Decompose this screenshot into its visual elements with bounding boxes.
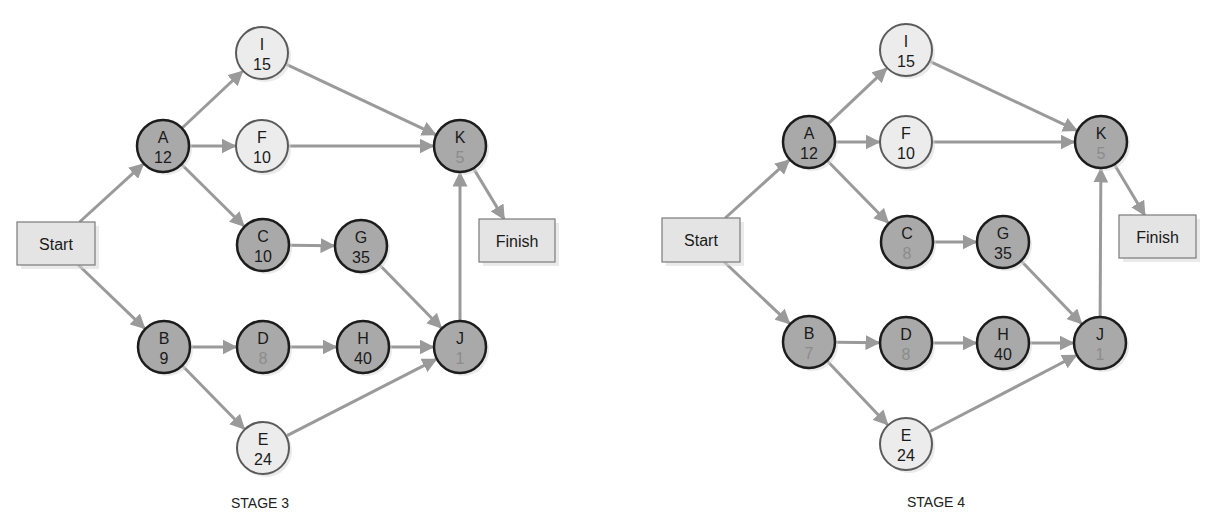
- edge-start-to-b: [78, 265, 144, 328]
- edge-a-to-i: [183, 71, 243, 127]
- start-label: Start: [39, 236, 73, 253]
- activity-node-f: F10: [880, 116, 935, 171]
- edge-b-to-e: [183, 366, 244, 428]
- node-label: C: [901, 225, 913, 242]
- activity-node-i: I15: [236, 27, 291, 82]
- node-duration: 1: [456, 350, 465, 367]
- finish-box: Finish: [479, 219, 559, 266]
- node-label: F: [257, 129, 267, 146]
- activity-node-k: K5: [1075, 116, 1130, 171]
- start-label: Start: [684, 232, 718, 249]
- edge-k-to-finish: [474, 169, 504, 219]
- edge-a-to-i: [829, 69, 887, 124]
- edge-start-to-a: [80, 164, 143, 222]
- activity-node-f: F10: [236, 120, 291, 175]
- diagram-stage-3: StartFinishA12I15F10C10G35K5B9D8H40J1E24…: [17, 27, 559, 511]
- node-label: J: [1096, 326, 1104, 343]
- activity-node-b: B7: [783, 316, 838, 371]
- activity-node-g: G35: [977, 216, 1032, 271]
- node-label: I: [904, 33, 908, 50]
- node-duration: 40: [994, 346, 1012, 363]
- node-label: E: [258, 431, 269, 448]
- node-duration: 10: [254, 248, 272, 265]
- node-duration: 5: [1097, 145, 1106, 162]
- finish-box: Finish: [1119, 215, 1200, 262]
- node-label: I: [260, 36, 264, 53]
- node-label: F: [901, 125, 911, 142]
- activity-node-j: J1: [434, 321, 489, 376]
- node-label: D: [257, 330, 269, 347]
- node-duration: 40: [354, 350, 372, 367]
- node-duration: 35: [994, 245, 1012, 262]
- node-label: K: [455, 129, 466, 146]
- node-duration: 10: [897, 145, 915, 162]
- edge-start-to-b: [724, 262, 789, 323]
- node-label: B: [159, 330, 170, 347]
- node-duration: 7: [805, 345, 814, 362]
- node-label: H: [357, 330, 369, 347]
- edge-a-to-c: [828, 161, 888, 222]
- activity-node-d: D8: [237, 321, 292, 376]
- node-label: K: [1096, 125, 1107, 142]
- stage-title: STAGE 4: [907, 494, 965, 510]
- node-duration: 35: [352, 249, 370, 266]
- node-label: E: [901, 427, 912, 444]
- node-label: J: [456, 330, 464, 347]
- edge-g-to-j: [1022, 261, 1082, 323]
- node-duration: 24: [897, 447, 915, 464]
- edge-b-to-e: [828, 362, 888, 425]
- node-label: G: [997, 225, 1009, 242]
- node-duration: 12: [800, 145, 818, 162]
- activity-node-h: H40: [337, 321, 392, 376]
- activity-node-c: C10: [237, 219, 292, 274]
- activity-node-g: G35: [335, 220, 390, 275]
- node-label: B: [804, 325, 815, 342]
- activity-node-e: E24: [880, 418, 935, 473]
- node-duration: 8: [902, 346, 911, 363]
- node-label: A: [804, 125, 815, 142]
- stage-title: STAGE 3: [231, 495, 289, 511]
- node-label: D: [900, 326, 912, 343]
- node-label: H: [997, 326, 1009, 343]
- activity-node-i: I15: [880, 24, 935, 79]
- edge-i-to-k: [286, 64, 435, 134]
- edge-i-to-k: [930, 62, 1076, 131]
- edge-a-to-c: [182, 165, 244, 226]
- activity-node-d: D8: [880, 317, 935, 372]
- node-duration: 9: [160, 350, 169, 367]
- edge-start-to-a: [725, 160, 789, 218]
- node-duration: 24: [254, 451, 272, 468]
- node-duration: 1: [1096, 346, 1105, 363]
- node-duration: 12: [154, 149, 172, 166]
- edge-g-to-j: [380, 265, 441, 327]
- node-duration: 10: [253, 149, 271, 166]
- node-duration: 8: [903, 245, 912, 262]
- network-diagram-canvas: StartFinishA12I15F10C10G35K5B9D8H40J1E24…: [0, 0, 1226, 519]
- edge-j-to-k: [1100, 169, 1101, 316]
- edge-k-to-finish: [1115, 165, 1145, 215]
- finish-label: Finish: [496, 233, 539, 250]
- node-label: C: [257, 228, 269, 245]
- activity-node-j: J1: [1074, 317, 1129, 372]
- node-duration: 15: [897, 53, 915, 70]
- activity-node-c: C8: [881, 216, 936, 271]
- node-duration: 5: [456, 149, 465, 166]
- activity-node-b: B9: [138, 321, 193, 376]
- start-box: Start: [17, 222, 99, 269]
- diagram-stage-4: StartFinishA12I15F10C8G35K5B7D8H40J1E24S…: [662, 24, 1200, 510]
- finish-label: Finish: [1136, 229, 1179, 246]
- node-label: A: [158, 129, 169, 146]
- node-duration: 15: [253, 56, 271, 73]
- node-label: G: [355, 229, 367, 246]
- activity-node-h: H40: [977, 317, 1032, 372]
- start-box: Start: [662, 218, 744, 266]
- node-duration: 8: [259, 350, 268, 367]
- activity-node-e: E24: [237, 422, 292, 477]
- activity-node-k: K5: [434, 120, 489, 175]
